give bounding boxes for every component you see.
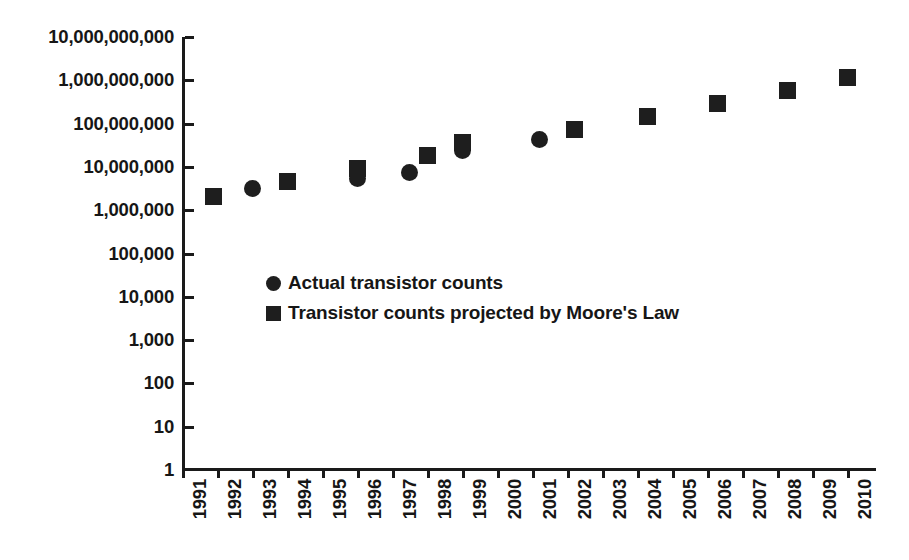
x-axis-tick-label: 2009 — [819, 479, 841, 519]
legend-item-label: Transistor counts projected by Moore's L… — [288, 302, 679, 324]
x-axis-tick-label: 1995 — [329, 479, 351, 519]
chart-legend: Actual transistor countsTransistor count… — [266, 268, 679, 328]
legend-item: Actual transistor counts — [266, 268, 679, 298]
x-axis-tick-label: 1997 — [399, 479, 421, 519]
x-axis-tick-label: 1991 — [189, 479, 211, 519]
legend-item: Transistor counts projected by Moore's L… — [266, 298, 679, 328]
legend-item-label: Actual transistor counts — [288, 272, 503, 294]
x-axis-tick-label: 1996 — [364, 479, 386, 519]
x-axis-tick-label: 1999 — [469, 479, 491, 519]
legend-circle-icon — [266, 276, 281, 291]
x-axis-tick-label: 2001 — [539, 479, 561, 519]
x-axis-tick-label: 2004 — [644, 479, 666, 519]
x-axis-tick-label: 2005 — [679, 479, 701, 519]
x-axis-tick-label: 2007 — [749, 479, 771, 519]
x-axis-tick-label: 1993 — [259, 479, 281, 519]
legend-square-icon — [266, 306, 281, 321]
x-axis-tick-label: 2003 — [609, 479, 631, 519]
x-axis-tick-label: 1992 — [224, 479, 246, 519]
x-axis-tick-label: 2008 — [784, 479, 806, 519]
x-axis-tick-label: 1994 — [294, 479, 316, 519]
x-axis-tick-label: 2006 — [714, 479, 736, 519]
x-axis-tick-label: 2000 — [504, 479, 526, 519]
x-axis-tick-label: 2010 — [854, 479, 876, 519]
x-axis-tick-label: 1998 — [434, 479, 456, 519]
x-axis-tick-label: 2002 — [574, 479, 596, 519]
moores-law-scatter-chart: 10,000,000,0001,000,000,000100,000,00010… — [0, 0, 909, 560]
